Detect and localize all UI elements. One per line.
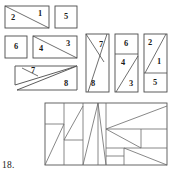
piece-label-8: 8 [64, 79, 68, 88]
piece-label-3-tall: 3 [129, 79, 133, 88]
piece-label-3: 3 [66, 39, 70, 48]
piece-label-2-tall: 2 [148, 38, 152, 47]
figure-canvas: 2 1 5 6 4 3 [0, 0, 172, 176]
geometry-figure: 2 1 5 6 4 3 [0, 0, 172, 176]
second-row-group: 6 4 3 [5, 36, 77, 58]
assembled-dissection [45, 103, 167, 165]
square-5: 5 [55, 6, 77, 28]
piece-label-2: 2 [11, 13, 15, 22]
square-6: 6 [5, 36, 27, 58]
tall-column-group: 7 8 6 4 3 2 1 5 [86, 34, 167, 92]
piece-label-6-tall: 6 [124, 39, 128, 48]
piece-label-7-tall: 7 [99, 40, 103, 49]
piece-label-5: 5 [64, 12, 68, 21]
piece-label-7: 7 [31, 66, 35, 75]
top-row-group: 2 1 5 [5, 6, 77, 28]
rect-diagonal-4-3: 4 3 [33, 36, 77, 58]
twin-triangles-7-8: 7 8 [15, 66, 77, 90]
rect-diagonal-2-1: 2 1 [5, 6, 49, 28]
piece-label-6: 6 [14, 42, 18, 51]
tall-rect-6-4-3: 6 4 3 [115, 34, 138, 92]
tall-rect-7-8: 7 8 [86, 34, 109, 92]
piece-label-5-tall: 5 [153, 78, 157, 87]
piece-label-8-tall: 8 [91, 79, 95, 88]
tall-rect-2-1-5: 2 1 5 [144, 34, 167, 92]
piece-label-1: 1 [38, 9, 42, 18]
figure-caption-number: 18. [2, 160, 14, 170]
piece-label-1-tall: 1 [157, 57, 161, 66]
